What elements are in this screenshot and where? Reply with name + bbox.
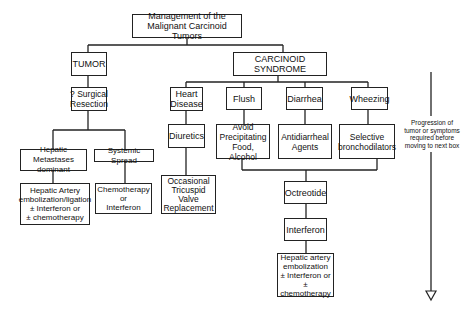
chemo-interferon-box: Chemotherapy or Interferon — [95, 183, 152, 214]
flush-tx-box: Avoid Precipitating Food, Alcohol — [216, 124, 270, 159]
arrow-head-icon — [426, 291, 436, 300]
progression-note: Progression of tumor or symptoms require… — [402, 119, 462, 149]
wheezing-tx-box: Selective bronchodilators — [339, 124, 395, 159]
systemic-spread-box: Systemic Spread — [94, 149, 154, 162]
wheezing-box: Wheezing — [351, 87, 388, 110]
surgical-resection-box: ? Surgical Resection — [71, 87, 107, 111]
diarrhea-box: Diarrhea — [286, 87, 323, 110]
hepatic-artery-tx-box: Hepatic Artery embolization/ligation ± I… — [20, 183, 90, 225]
interferon-box: Interferon — [284, 218, 327, 241]
octreotide-box: Octreotide — [284, 181, 327, 204]
tumor-box: TUMOR — [71, 52, 107, 76]
hepatic-artery-syndrome-tx-box: Hepatic artery embolization ± Interferon… — [277, 253, 334, 297]
title-box: Management of the Malignant Carcinoid Tu… — [132, 14, 242, 38]
flush-box: Flush — [226, 87, 262, 110]
hepatic-metastases-box: Hepatic Metastases dominant — [20, 149, 87, 171]
heart-disease-box: Heart Disease — [170, 87, 203, 111]
diuretics-box: Diuretics — [168, 124, 205, 148]
diarrhea-tx-box: Antidiarrheal Agents — [278, 124, 332, 159]
carcinoid-syndrome-box: CARCINOID SYNDROME — [233, 52, 327, 76]
valve-replacement-box: Occasional Tricuspid Valve Replacement — [161, 175, 216, 214]
